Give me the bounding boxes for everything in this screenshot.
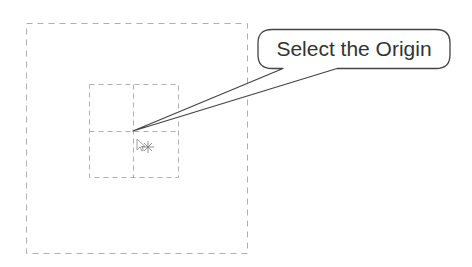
select-cursor-icon: [137, 139, 154, 153]
callout-text: Select the Origin: [259, 30, 449, 68]
